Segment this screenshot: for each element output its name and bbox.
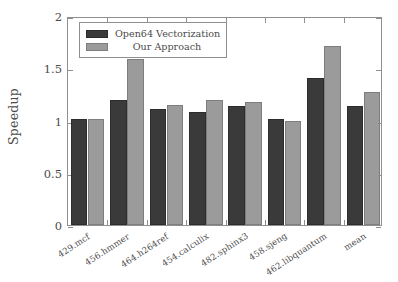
y-axis-tick-label: 0 — [55, 219, 62, 233]
legend-label: Our Approach — [115, 41, 219, 52]
x-axis-tick-mark — [265, 18, 266, 23]
legend-label: Open64 Vectorization — [115, 28, 219, 39]
bar — [150, 109, 167, 225]
y-axis-tick-label: 1.5 — [44, 62, 62, 76]
x-axis-tick-mark — [344, 220, 345, 225]
chart-legend: Open64 VectorizationOur Approach — [79, 22, 227, 58]
x-axis-tick-mark — [147, 220, 148, 225]
bar — [245, 102, 262, 225]
bar — [228, 106, 245, 225]
x-axis-tick-mark — [226, 220, 227, 225]
bar — [324, 46, 341, 225]
x-axis-tick-label: mean — [342, 231, 368, 253]
bar — [189, 112, 206, 225]
bar — [110, 100, 127, 225]
bar — [268, 119, 285, 225]
bar — [285, 121, 302, 226]
bar — [364, 92, 381, 225]
legend-swatch — [86, 30, 108, 38]
y-axis-tick-mark — [376, 18, 381, 19]
y-axis-tick-label: 2 — [55, 10, 62, 24]
x-axis-tick-mark — [186, 220, 187, 225]
legend-entry: Open64 Vectorization — [86, 27, 219, 40]
bar — [71, 119, 88, 225]
y-axis-tick-label: 0.5 — [44, 167, 62, 181]
x-axis-tick-mark — [107, 220, 108, 225]
y-axis-tick-mark — [68, 227, 73, 228]
y-axis-title-text: Speedup — [6, 88, 21, 145]
x-axis-tick-mark — [304, 220, 305, 225]
y-axis-title: Speedup — [2, 0, 24, 232]
bar — [307, 78, 324, 225]
bar — [167, 105, 184, 225]
bar — [127, 59, 144, 225]
legend-entry: Our Approach — [86, 40, 219, 53]
speedup-bar-chart: Speedup 00.511.52 429.mcf456.hmmer464.h2… — [0, 0, 398, 282]
y-axis-tick-mark — [376, 70, 381, 71]
y-axis-tick-mark — [68, 70, 73, 71]
bar — [347, 106, 364, 225]
x-axis-tick-label: 429.mcf — [56, 231, 92, 259]
x-axis-tick-mark — [304, 18, 305, 23]
y-axis-tick-mark — [376, 227, 381, 228]
y-axis-tick-mark — [68, 18, 73, 19]
bar — [88, 119, 105, 225]
x-axis-tick-mark — [344, 18, 345, 23]
x-axis-tick-mark — [265, 220, 266, 225]
legend-swatch — [86, 43, 108, 51]
bar — [206, 100, 223, 225]
y-axis-tick-label: 1 — [55, 115, 62, 129]
